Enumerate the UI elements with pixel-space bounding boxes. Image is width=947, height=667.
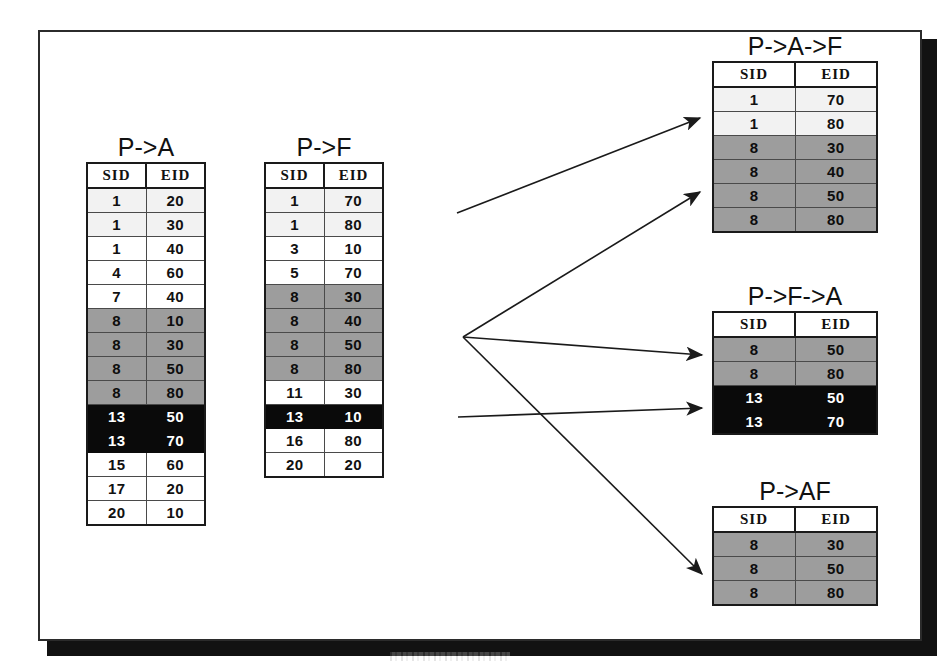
cell-eid: 10 <box>324 237 383 261</box>
table-p-a-f: SID EID 170180830840850880 <box>712 61 878 233</box>
column-header-eid: EID <box>146 163 205 188</box>
table-row: 880 <box>713 208 877 233</box>
cell-eid: 60 <box>146 453 205 477</box>
table-row: 810 <box>87 309 205 333</box>
table-p-a: SID EID 12013014046074081083085088013501… <box>86 162 206 526</box>
cell-eid: 80 <box>795 208 877 233</box>
cell-sid: 8 <box>713 184 795 208</box>
cell-eid: 10 <box>146 309 205 333</box>
cell-eid: 20 <box>146 477 205 501</box>
cell-sid: 8 <box>713 208 795 233</box>
table-row: 840 <box>713 160 877 184</box>
cell-sid: 8 <box>87 309 146 333</box>
table-header-row: SID EID <box>713 62 877 87</box>
table-row: 1130 <box>265 381 383 405</box>
cell-eid: 50 <box>324 333 383 357</box>
cell-sid: 4 <box>87 261 146 285</box>
table-row: 180 <box>265 213 383 237</box>
cell-eid: 80 <box>324 429 383 453</box>
cell-eid: 30 <box>324 285 383 309</box>
table-row: 570 <box>265 261 383 285</box>
cell-sid: 13 <box>713 386 795 410</box>
cell-eid: 10 <box>146 501 205 526</box>
cell-eid: 70 <box>324 188 383 213</box>
table-header-row: SID EID <box>713 507 877 532</box>
cell-sid: 13 <box>265 405 324 429</box>
table-row: 1370 <box>87 429 205 453</box>
column-header-eid: EID <box>795 62 877 87</box>
table-row: 120 <box>87 188 205 213</box>
cell-sid: 20 <box>265 453 324 478</box>
cell-sid: 20 <box>87 501 146 526</box>
cell-eid: 40 <box>146 237 205 261</box>
table-block-p-a: P->A SID EID 120130140460740810830850880… <box>86 134 206 526</box>
cell-sid: 8 <box>713 581 795 606</box>
cell-eid: 40 <box>324 309 383 333</box>
table-row: 740 <box>87 285 205 309</box>
cell-sid: 1 <box>87 237 146 261</box>
cell-sid: 13 <box>713 410 795 435</box>
table-block-p-f: P->F SID EID 170180310570830840850880113… <box>264 134 384 478</box>
table-p-f: SID EID 17018031057083084085088011301310… <box>264 162 384 478</box>
table-row: 1350 <box>87 405 205 429</box>
table-row: 130 <box>87 213 205 237</box>
table-row: 850 <box>265 333 383 357</box>
cell-sid: 1 <box>713 112 795 136</box>
cell-eid: 30 <box>146 333 205 357</box>
column-header-sid: SID <box>87 163 146 188</box>
cell-sid: 8 <box>265 357 324 381</box>
table-row: 1560 <box>87 453 205 477</box>
cell-eid: 80 <box>795 112 877 136</box>
table-title-p-f-a: P->F->A <box>712 283 878 309</box>
table-row: 170 <box>265 188 383 213</box>
cell-sid: 8 <box>265 309 324 333</box>
cell-sid: 8 <box>713 160 795 184</box>
table-row: 850 <box>713 184 877 208</box>
table-row: 310 <box>265 237 383 261</box>
table-row: 830 <box>713 532 877 557</box>
cell-sid: 8 <box>87 381 146 405</box>
cell-sid: 11 <box>265 381 324 405</box>
cell-eid: 10 <box>324 405 383 429</box>
table-row: 850 <box>713 337 877 362</box>
table-title-p-a-f: P->A->F <box>712 33 878 59</box>
cell-eid: 20 <box>146 188 205 213</box>
cell-eid: 30 <box>324 381 383 405</box>
cell-sid: 8 <box>87 357 146 381</box>
column-header-sid: SID <box>713 62 795 87</box>
column-header-sid: SID <box>713 312 795 337</box>
column-header-sid: SID <box>265 163 324 188</box>
cell-sid: 8 <box>713 557 795 581</box>
cell-sid: 8 <box>713 362 795 386</box>
cell-eid: 70 <box>324 261 383 285</box>
cell-eid: 70 <box>146 429 205 453</box>
column-header-eid: EID <box>324 163 383 188</box>
cell-sid: 8 <box>713 532 795 557</box>
table-row: 2010 <box>87 501 205 526</box>
cell-eid: 70 <box>795 410 877 435</box>
cell-eid: 80 <box>795 362 877 386</box>
cell-eid: 50 <box>795 337 877 362</box>
table-row: 850 <box>713 557 877 581</box>
column-header-eid: EID <box>795 507 877 532</box>
table-row: 140 <box>87 237 205 261</box>
table-title-p-a: P->A <box>86 134 206 160</box>
cell-sid: 1 <box>713 87 795 112</box>
cell-eid: 20 <box>324 453 383 478</box>
table-row: 1370 <box>713 410 877 435</box>
cell-eid: 40 <box>795 160 877 184</box>
diagram-canvas: P->A SID EID 120130140460740810830850880… <box>0 0 947 667</box>
cell-sid: 8 <box>265 285 324 309</box>
column-header-eid: EID <box>795 312 877 337</box>
cell-sid: 1 <box>265 213 324 237</box>
cell-eid: 50 <box>795 184 877 208</box>
table-row: 850 <box>87 357 205 381</box>
scan-noise-artifact <box>390 652 510 661</box>
table-p-f-a: SID EID 85088013501370 <box>712 311 878 435</box>
table-header-row: SID EID <box>265 163 383 188</box>
cell-sid: 15 <box>87 453 146 477</box>
cell-sid: 1 <box>265 188 324 213</box>
cell-eid: 30 <box>795 136 877 160</box>
cell-sid: 13 <box>87 405 146 429</box>
cell-eid: 60 <box>146 261 205 285</box>
